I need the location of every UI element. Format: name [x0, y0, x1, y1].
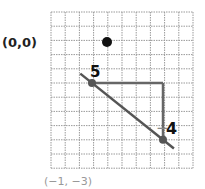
coordinate-grid — [51, 12, 193, 168]
origin-label: (0,0) — [2, 35, 37, 50]
slope-diagram: (0,0) 5 − 4 (−1, −3) — [0, 0, 205, 189]
rise-label-value: 4 — [166, 119, 177, 138]
origin-point — [102, 37, 112, 47]
run-label: 5 — [90, 63, 100, 81]
bottom-coordinate-label: (−1, −3) — [44, 175, 92, 188]
